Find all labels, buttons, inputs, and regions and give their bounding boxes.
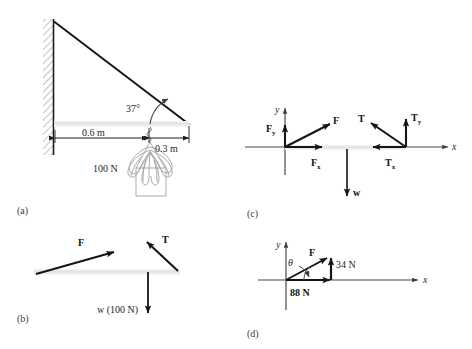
force-label-t-c: T bbox=[358, 113, 365, 124]
force-label-f-d: F bbox=[309, 247, 315, 258]
strut-bar bbox=[54, 121, 190, 127]
force-label-ty-c: Ty bbox=[411, 112, 422, 126]
force-label-t-b: T bbox=[162, 234, 169, 245]
angle-label-37: 37° bbox=[126, 103, 140, 114]
force-arrow-t-c bbox=[371, 123, 406, 147]
axis-label-x-d: x bbox=[422, 274, 428, 285]
component-label-88n: 88 N bbox=[290, 287, 311, 298]
weight-label-c: w bbox=[353, 187, 361, 198]
force-arrow-f-c bbox=[285, 124, 330, 147]
force-label-f-c: F bbox=[333, 115, 339, 126]
axis-label-x-c: x bbox=[451, 141, 457, 152]
dimension-label-0-6m: 0.6 m bbox=[82, 127, 105, 138]
axis-label-y-d: y bbox=[275, 239, 281, 250]
force-label-fx-c: Fx bbox=[311, 157, 321, 171]
force-label-tx-c: Tx bbox=[385, 157, 396, 171]
panel-d: x y F 88 N 34 N θ (d) bbox=[247, 239, 428, 340]
strut-bar-b bbox=[34, 269, 180, 275]
weight-label-b: w (100 N) bbox=[97, 304, 138, 316]
axis-label-y-c: y bbox=[274, 104, 280, 115]
physics-figure: 37° 0.6 m 0.3 m 100 N (a) bbox=[0, 0, 472, 349]
panel-label-c: (c) bbox=[247, 208, 258, 220]
panel-label-a: (a) bbox=[17, 205, 28, 217]
component-label-34n: 34 N bbox=[336, 259, 356, 270]
force-arrow-t-b bbox=[147, 242, 178, 271]
force-label-fy-c: Fy bbox=[266, 123, 276, 137]
angle-arc-37 bbox=[150, 99, 168, 124]
panel-label-b: (b) bbox=[17, 313, 29, 325]
panel-c: x y F Fx Fy T Tx Ty w (c) bbox=[245, 104, 457, 220]
wall-hatch-icon bbox=[43, 19, 53, 155]
panel-label-d: (d) bbox=[247, 328, 259, 340]
panel-a: 37° 0.6 m 0.3 m 100 N (a) bbox=[17, 19, 190, 217]
force-label-f-b: F bbox=[78, 237, 84, 248]
angle-label-theta: θ bbox=[288, 257, 293, 268]
dimension-label-0-3m: 0.3 m bbox=[155, 143, 178, 154]
weight-label-100n: 100 N bbox=[93, 163, 118, 174]
cable-line bbox=[54, 22, 190, 126]
panel-b: F T w (100 N) (b) bbox=[17, 234, 180, 325]
